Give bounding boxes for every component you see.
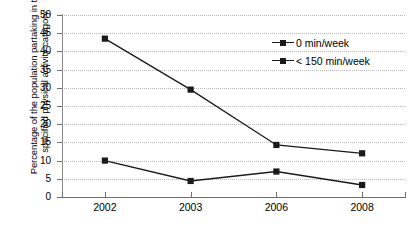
- gridline: [62, 124, 405, 125]
- x-tick-label: 2008: [332, 201, 392, 214]
- gridline: [62, 70, 405, 71]
- y-tick-label: 30: [30, 83, 56, 93]
- y-tick-label: 35: [30, 65, 56, 75]
- y-tick-label: 5: [30, 174, 56, 184]
- y-axis-tick-labels: 05101520253035404550: [30, 0, 56, 225]
- gridline: [62, 179, 405, 180]
- x-tick-label: 2002: [75, 201, 135, 214]
- y-tick-mark: [57, 51, 62, 52]
- x-tick-mark: [362, 192, 363, 197]
- gridline: [62, 15, 405, 16]
- y-tick-label: 20: [30, 119, 56, 129]
- legend-entry-under-150-min-week: < 150 min/week: [272, 54, 370, 67]
- y-axis-line: [62, 14, 63, 198]
- y-tick-label: 45: [30, 28, 56, 38]
- x-tick-mark: [191, 192, 192, 197]
- gridline: [62, 161, 405, 162]
- x-tick-label: 2003: [161, 201, 221, 214]
- gridline: [62, 88, 405, 89]
- legend-entry-0-min-week: 0 min/week: [272, 36, 370, 49]
- y-tick-label: 50: [30, 10, 56, 20]
- legend-label: < 150 min/week: [296, 55, 370, 67]
- x-tick-label: 2006: [246, 201, 306, 214]
- y-tick-mark: [57, 33, 62, 34]
- x-axis-cap-left: [62, 192, 63, 197]
- y-tick-mark: [57, 15, 62, 16]
- y-tick-label: 15: [30, 137, 56, 147]
- line-chart: Percentage of the population partaking i…: [0, 0, 417, 225]
- y-tick-mark: [57, 88, 62, 89]
- y-tick-label: 0: [30, 192, 56, 202]
- chart-legend: 0 min/week < 150 min/week: [272, 36, 370, 67]
- y-tick-mark: [57, 106, 62, 107]
- y-tick-mark: [57, 124, 62, 125]
- legend-line-marker-icon: [272, 55, 294, 66]
- x-axis-cap-right: [405, 192, 406, 197]
- legend-label: 0 min/week: [296, 37, 349, 49]
- x-axis-line: [62, 197, 406, 198]
- x-tick-mark: [105, 192, 106, 197]
- y-tick-label: 25: [30, 101, 56, 111]
- y-tick-mark: [57, 142, 62, 143]
- gridline: [62, 106, 405, 107]
- y-tick-mark: [57, 161, 62, 162]
- x-tick-mark: [276, 192, 277, 197]
- y-tick-mark: [57, 179, 62, 180]
- y-tick-label: 10: [30, 156, 56, 166]
- gridline: [62, 33, 405, 34]
- y-tick-mark: [57, 197, 62, 198]
- y-tick-mark: [57, 70, 62, 71]
- y-tick-label: 40: [30, 46, 56, 56]
- legend-line-marker-icon: [272, 37, 294, 48]
- gridline: [62, 142, 405, 143]
